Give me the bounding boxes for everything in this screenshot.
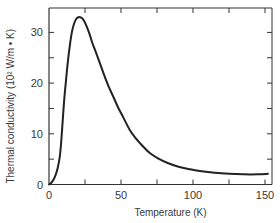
- x-tick-label: 50: [115, 189, 127, 201]
- y-tick-label: 10: [31, 128, 43, 140]
- x-tick-label: 0: [46, 189, 52, 201]
- series-line: [49, 17, 268, 184]
- axis-ticks: [49, 8, 272, 185]
- plot-frame: [49, 8, 272, 185]
- thermal-conductivity-chart: 0501001500102030 Temperature (K) Thermal…: [0, 0, 280, 223]
- y-axis-label: Thermal conductivity (10² W/m • K): [5, 29, 16, 184]
- y-tick-label: 20: [31, 77, 43, 89]
- x-tick-label: 150: [256, 189, 274, 201]
- y-tick-label: 0: [37, 179, 43, 191]
- y-tick-label: 30: [31, 26, 43, 38]
- x-axis-label: Temperature (K): [134, 207, 206, 218]
- x-tick-label: 100: [184, 189, 202, 201]
- data-series: [49, 17, 268, 184]
